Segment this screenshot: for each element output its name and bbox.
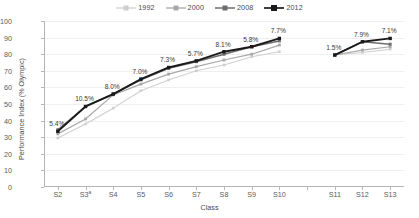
gridline (45, 137, 404, 138)
legend-marker-2012 (264, 4, 284, 12)
legend-item-1992[interactable]: 1992 (116, 3, 154, 12)
gridline (45, 154, 404, 155)
data-label: 7.7% (271, 27, 286, 34)
gridline (45, 21, 404, 22)
data-label: 10.5% (75, 95, 94, 102)
x-axis-tick-label: S10 (259, 190, 299, 199)
data-label: 1.5% (326, 44, 341, 51)
gridline (45, 104, 404, 105)
legend-marker-2000 (166, 4, 186, 12)
gridline (45, 71, 404, 72)
gridline (45, 38, 404, 39)
y-axis-tick-label: 80 (0, 50, 12, 59)
data-label: 8.0% (105, 83, 120, 90)
y-axis-tick-mark (41, 187, 44, 188)
legend-item-2008[interactable]: 2008 (215, 3, 253, 12)
data-label: 8.1% (215, 41, 230, 48)
y-axis-tick-label: 0 (0, 183, 12, 192)
chart-legend: 1992 2000 2008 (0, 3, 419, 12)
gridline (45, 121, 404, 122)
data-label: 7.0% (132, 68, 147, 75)
legend-marker-1992 (116, 4, 136, 12)
x-axis-title: Class (0, 203, 419, 212)
gridline (45, 170, 404, 171)
data-label: 5.7% (188, 50, 203, 57)
legend-item-2000[interactable]: 2000 (166, 3, 204, 12)
data-label: 5.8% (243, 36, 258, 43)
legend-marker-2008 (215, 4, 235, 12)
data-label: 7.1% (382, 27, 397, 34)
y-axis-tick-label: 20 (0, 149, 12, 158)
data-label: 5.4% (49, 120, 64, 127)
y-axis-tick-label: 50 (0, 100, 12, 109)
data-label: 7.3% (160, 56, 175, 63)
y-axis-tick-label: 70 (0, 66, 12, 75)
gridline (45, 54, 404, 55)
y-axis-title: Performance Index (% Olympic) (17, 34, 26, 184)
legend-label-2012: 2012 (286, 3, 302, 12)
legend-label-2008: 2008 (237, 3, 253, 12)
y-axis-tick-label: 60 (0, 83, 12, 92)
legend-label-2000: 2000 (188, 3, 204, 12)
y-axis-tick-label: 100 (0, 17, 12, 26)
y-axis-tick-label: 10 (0, 166, 12, 175)
line-chart: 1992 2000 2008 (0, 0, 419, 218)
y-axis-tick-label: 90 (0, 33, 12, 42)
legend-item-2012[interactable]: 2012 (264, 3, 302, 12)
x-axis-tick-label: S13 (370, 190, 410, 199)
y-axis-tick-label: 40 (0, 116, 12, 125)
data-label: 7.9% (354, 31, 369, 38)
y-axis-tick-label: 30 (0, 133, 12, 142)
legend-label-1992: 1992 (138, 3, 154, 12)
gridline (45, 87, 404, 88)
x-axis-tick-mark (307, 187, 308, 190)
